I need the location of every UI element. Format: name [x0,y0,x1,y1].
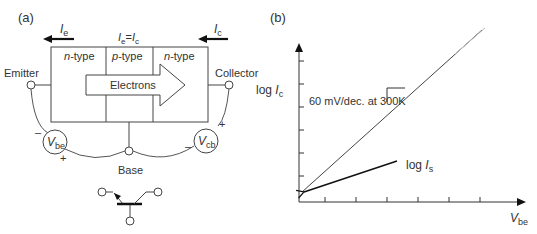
panel-a-label: (a) [18,10,34,25]
base-terminal [125,147,133,155]
log-ic-curve [302,30,482,192]
log-is-arrow [304,161,397,192]
bjt-symbol [98,188,162,225]
y-axis-label: log Ic [256,83,284,99]
bjt-diagram: (a) Ie Ic Ie=Ic n-type p-type n-type Ele… [0,0,537,234]
region-label-collector-n: n-type [164,50,195,62]
collector-label: Collector [215,67,259,79]
x-axis-label: Vbe [510,211,528,227]
vbe-source: Vbe – + [35,126,67,164]
base-label: Base [118,164,143,176]
region-label-base-p: p-type [111,50,143,62]
collector-terminal [225,81,233,89]
plot-axes [295,43,526,206]
panel-b-label: (b) [270,10,286,25]
vbe-minus: – [35,126,42,138]
collector-current-arrow [198,35,228,43]
vcb-minus: – [185,140,192,152]
vcb-plus: + [219,118,225,130]
collector-current-label: Ic [214,22,222,38]
emitter-current-label: Ie [60,22,68,38]
emitter-label: Emitter [4,67,39,79]
vbe-plus: + [60,152,66,164]
electrons-label: Electrons [110,79,156,91]
vcb-source: Vcb – + [185,118,225,153]
current-equality-label: Ie=Ic [118,31,139,46]
emitter-current-arrow [43,35,74,43]
slope-annotation: 60 mV/dec. at 300K [309,95,406,107]
emitter-terminal [27,81,35,89]
region-label-emitter-n: n-type [64,50,95,62]
log-is-label: log Is [406,158,434,174]
